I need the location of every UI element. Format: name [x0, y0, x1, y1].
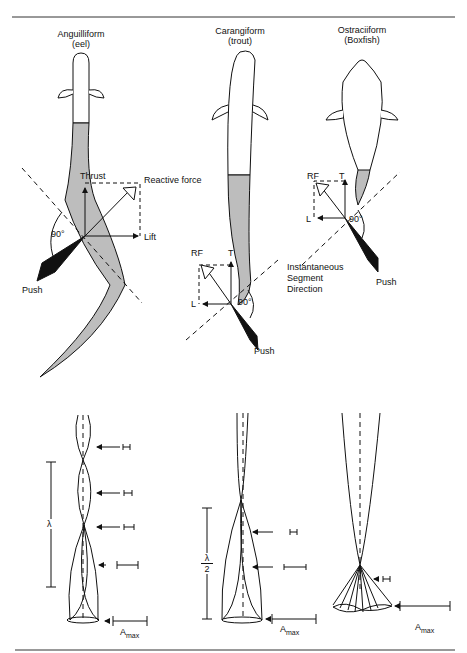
- label-boxfish-l: L: [306, 214, 311, 224]
- label-eel-push: Push: [22, 285, 43, 295]
- label-boxfish-angle: 90°: [349, 214, 363, 224]
- trout-figure: [212, 51, 268, 305]
- label-trout-rf: RF: [191, 248, 203, 258]
- trout-wave-diagram: [202, 413, 316, 624]
- label-trout-t: T: [228, 248, 234, 258]
- label-thrust: Thrust: [80, 171, 106, 181]
- eel-figure: [40, 53, 125, 377]
- label-trout-amax: Amax: [280, 624, 299, 638]
- trout-force-diagram: [186, 260, 278, 340]
- label-eel-amax: Amax: [120, 627, 139, 641]
- label-boxfish-push: Push: [376, 277, 397, 287]
- label-half-lambda: λ2: [201, 553, 213, 574]
- eel-wave-diagram: [46, 415, 147, 626]
- label-boxfish-t: T: [339, 171, 345, 181]
- panel-title-trout: Carangiform(trout): [205, 26, 275, 46]
- label-boxfish-rf: RF: [307, 171, 319, 181]
- label-lambda: λ: [47, 519, 52, 529]
- label-trout-l: L: [191, 299, 196, 309]
- label-segment-direction: InstantaneousSegmentDirection: [287, 262, 344, 295]
- boxfish-wave-diagram: [333, 413, 450, 612]
- label-trout-angle: 90°: [238, 297, 252, 307]
- panel-title-eel: Anguilliform(eel): [46, 29, 116, 49]
- label-eel-angle: 90°: [51, 229, 65, 239]
- label-lift: Lift: [144, 232, 156, 242]
- diagram-canvas: [0, 0, 467, 653]
- label-reactive-force: Reactive force: [144, 175, 202, 185]
- panel-title-boxfish: Ostraciiform(Boxfish): [326, 25, 398, 45]
- label-trout-push: Push: [254, 346, 275, 356]
- label-boxfish-amax: Amax: [415, 622, 434, 636]
- boxfish-figure: [326, 60, 398, 205]
